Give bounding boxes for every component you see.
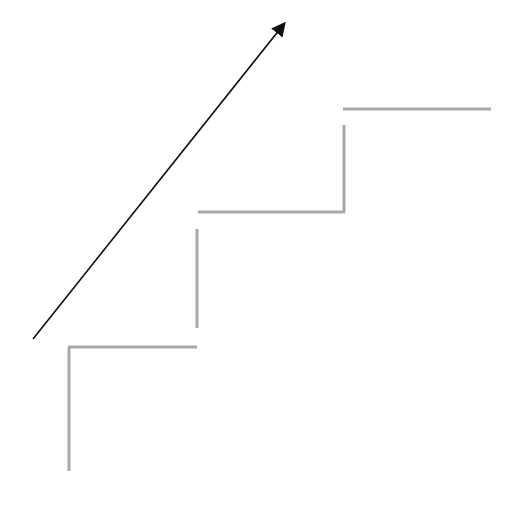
upward-arrow-icon xyxy=(33,24,284,339)
staircase-diagram xyxy=(0,0,513,532)
stairs xyxy=(68,109,491,471)
